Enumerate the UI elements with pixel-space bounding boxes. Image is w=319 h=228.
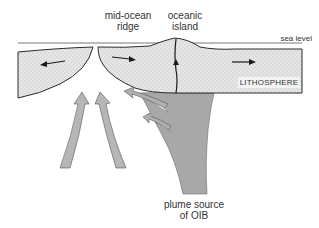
upwelling-arrow-right-icon <box>95 92 126 168</box>
oceanic-island-label: oceanic island <box>155 10 215 32</box>
plume-label-line-1: plume source <box>158 199 230 210</box>
island-label-line-1: oceanic <box>155 10 215 21</box>
lithosphere-label: LITHOSPHERE <box>238 77 300 88</box>
island-label-line-2: island <box>155 21 215 32</box>
plume-label-line-2: of OIB <box>158 210 230 221</box>
sea-level-label: sea level <box>262 33 312 44</box>
upwelling-arrow-left-icon <box>60 92 89 168</box>
mantle-plume <box>140 93 214 195</box>
lithosphere-left <box>18 47 93 98</box>
plume-source-label: plume source of OIB <box>158 199 230 221</box>
